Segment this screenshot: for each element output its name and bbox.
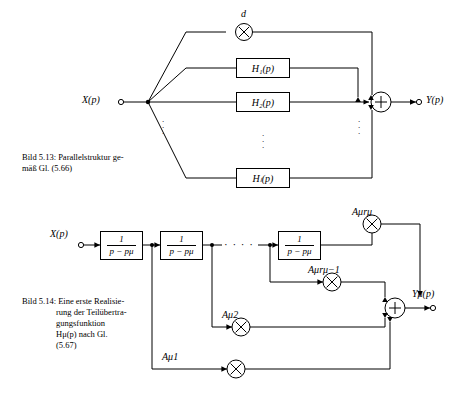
fraction-2: 1 p − pμ xyxy=(167,235,195,256)
output-terminal-514 xyxy=(430,305,435,310)
branch-node-514-b xyxy=(210,243,214,247)
caption-5-14-line-1: Bild 5.14: Eine erste Realisie- xyxy=(22,296,140,307)
caption-5-14-line-4: Hμ(p) nach Gl. xyxy=(22,329,140,340)
branch-node-514-c xyxy=(268,243,272,247)
fraction-1: 1 p − pμ xyxy=(107,235,135,256)
branch-node-514-a xyxy=(150,243,154,247)
coeff-label-amu-1: Aμ1 xyxy=(162,351,178,362)
input-label-514: X(p) xyxy=(50,228,68,239)
block-integrator-3: 1 p − pμ xyxy=(278,231,321,260)
caption-5-14-line-3: gungsfunktion xyxy=(22,318,140,329)
fraction-3-denominator: p − pμ xyxy=(285,247,313,256)
fraction-2-denominator: p − pμ xyxy=(167,247,195,256)
coeff-label-amu-rmu-1: Aμrμ−1 xyxy=(308,264,340,275)
caption-5-14: Bild 5.14: Eine erste Realisie- rung der… xyxy=(22,296,140,351)
figure-page: H₁(p) H₂(p) Hₗ(p) d X(p) Y(p) ... ... ..… xyxy=(0,0,462,395)
fraction-2-numerator: 1 xyxy=(177,235,186,244)
coeff-label-amu-rmu: Aμrμ xyxy=(352,206,372,217)
horizontal-dots-514: · · · · xyxy=(224,239,254,250)
caption-5-14-line-5: (5.67) xyxy=(22,340,140,351)
fraction-3: 1 p − pμ xyxy=(285,235,313,256)
block-integrator-1: 1 p − pμ xyxy=(100,231,143,260)
block-integrator-2: 1 p − pμ xyxy=(160,231,203,260)
fraction-1-numerator: 1 xyxy=(117,235,126,244)
output-label-514: Yμ(p) xyxy=(412,288,434,299)
fraction-3-numerator: 1 xyxy=(295,235,304,244)
input-terminal-514 xyxy=(78,242,83,247)
coeff-label-amu-2: Aμ2 xyxy=(222,309,238,320)
caption-5-14-line-2: rung der Teilübertra- xyxy=(22,307,140,318)
fraction-1-denominator: p − pμ xyxy=(107,247,135,256)
